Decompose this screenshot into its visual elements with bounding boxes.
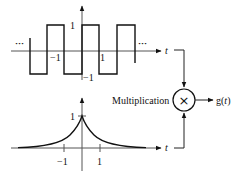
square-wave-plot: ··· ··· 1 −1 −1 1 t (11, 6, 168, 83)
top-input-connector (174, 50, 184, 87)
bottom-x-tick-neg1-label: −1 (57, 156, 68, 167)
top-y-tick-1: 1 (70, 20, 75, 31)
multiply-icon: × (179, 93, 190, 108)
ellipsis-left: ··· (15, 38, 24, 48)
ellipsis-right: ··· (138, 38, 147, 48)
output-label: g(t) (216, 95, 230, 107)
multiplier-block: × Multiplication g(t) (112, 50, 230, 148)
square-wave-signal (30, 25, 135, 74)
top-x-tick-neg1: −1 (50, 52, 61, 63)
bottom-input-connector (174, 113, 184, 148)
exponential-plot: 1 −1 1 t (11, 98, 168, 171)
bottom-x-tick-1-label: 1 (97, 156, 102, 167)
multiplication-label: Multiplication (112, 95, 169, 106)
top-y-tick-neg1: −1 (83, 72, 94, 83)
top-x-axis-label: t (165, 45, 168, 56)
modulation-diagram: ··· ··· 1 −1 −1 1 t 1 −1 1 t × Multiplic… (0, 0, 235, 171)
bottom-x-axis-label: t (165, 142, 168, 153)
top-x-tick-1: 1 (100, 52, 105, 63)
bottom-y-tick-1: 1 (70, 111, 75, 122)
